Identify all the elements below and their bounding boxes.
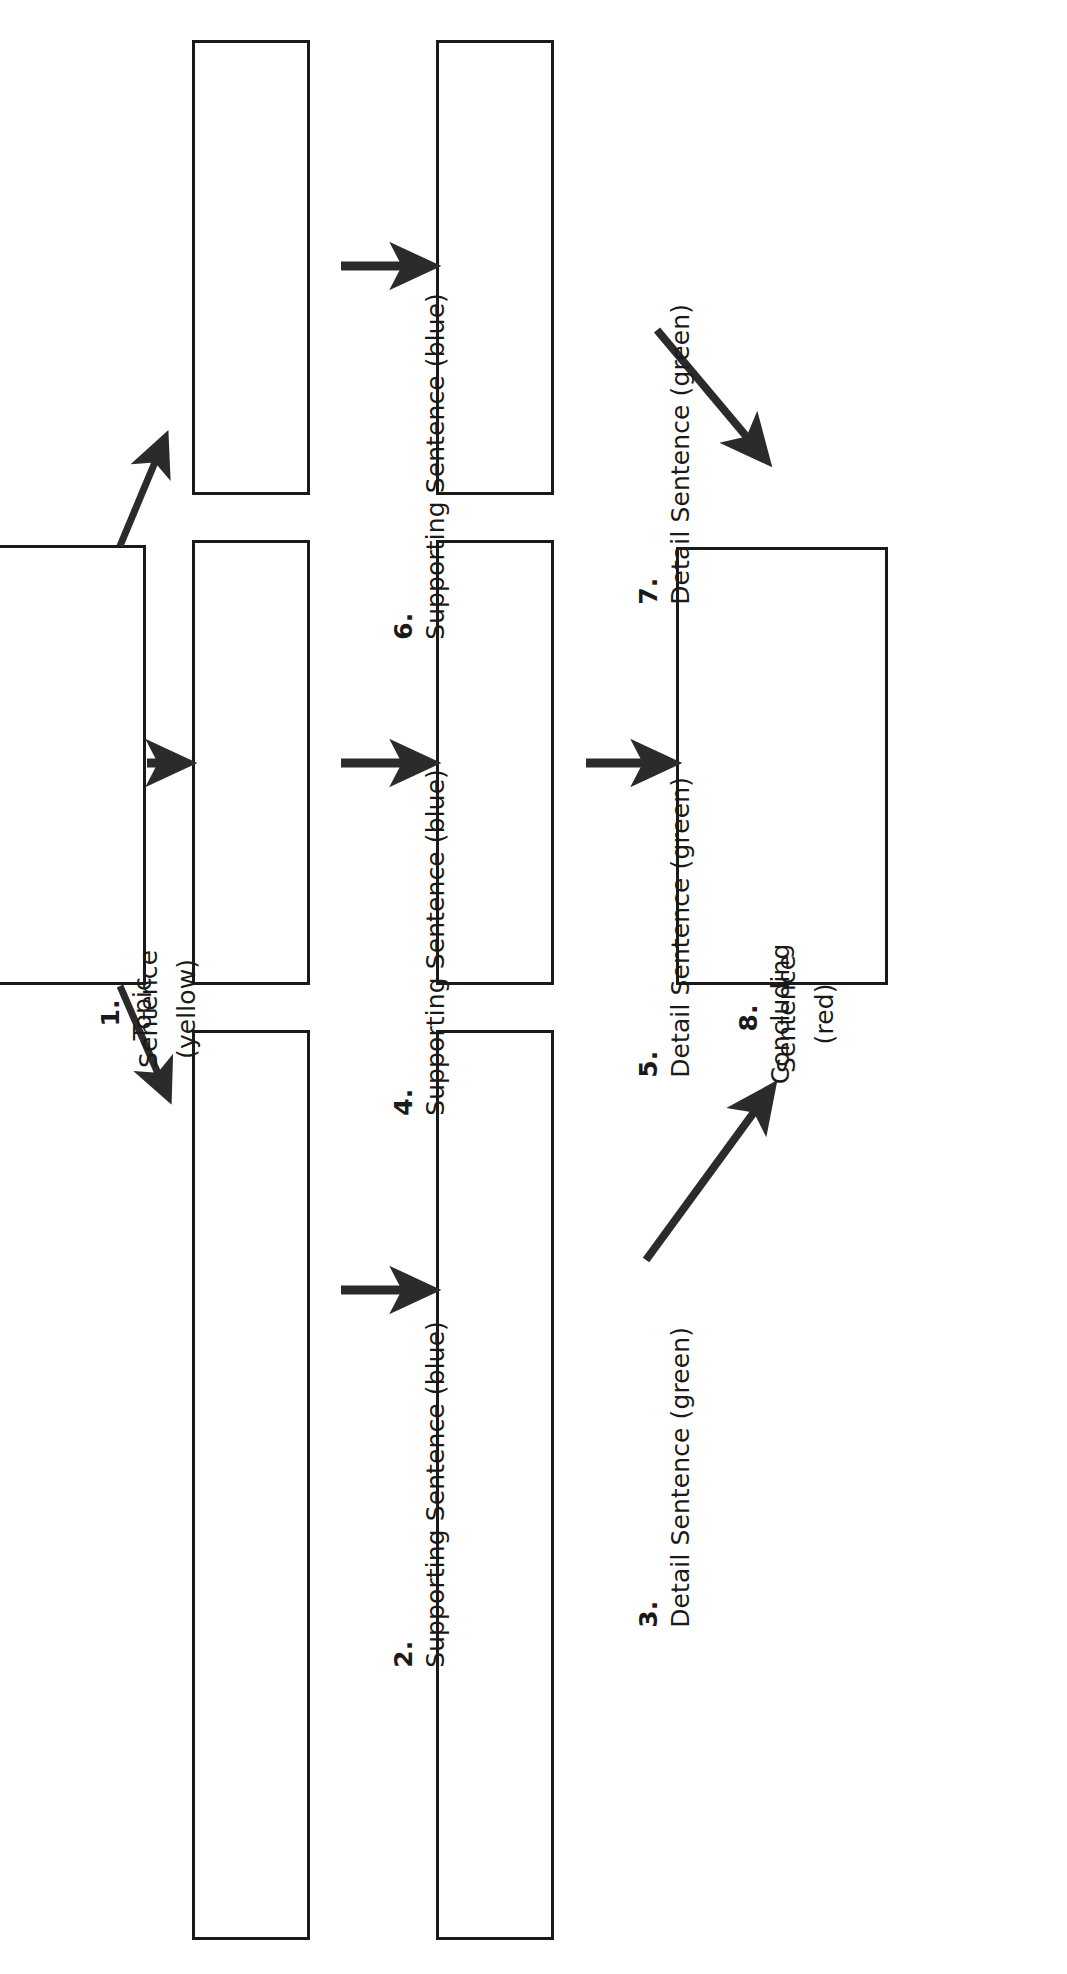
label-concluding-sentence-line3: (red) — [776, 930, 874, 1130]
diagram-canvas: 1. Topic Sentence (yellow) 2. Supporting… — [0, 0, 1067, 1974]
label-number-4: 4. — [389, 1089, 418, 1116]
box-supporting-sentence-6[interactable] — [192, 40, 310, 495]
arrow-topic-to-supporting-6 — [120, 443, 163, 546]
label-number-5: 5. — [634, 1051, 663, 1078]
box-topic-sentence[interactable] — [0, 545, 146, 985]
label-number-2: 2. — [389, 1641, 418, 1668]
box-supporting-sentence-2[interactable] — [192, 1030, 310, 1940]
label-text-7: Detail Sentence (green) — [666, 304, 695, 605]
label-number-7: 7. — [634, 578, 663, 605]
box-supporting-sentence-4[interactable] — [192, 540, 310, 985]
label-text-3: Detail Sentence (green) — [666, 1327, 695, 1628]
label-supporting-sentence-4: 4. Supporting Sentence (blue) — [355, 769, 485, 1148]
label-text-5: Detail Sentence (green) — [666, 777, 695, 1078]
label-detail-sentence-7: 7. Detail Sentence (green) — [600, 304, 730, 637]
label-text-8-line-3: (red) — [810, 983, 839, 1044]
label-text-4: Supporting Sentence (blue) — [421, 769, 450, 1116]
label-supporting-sentence-6: 6. Supporting Sentence (blue) — [355, 293, 485, 672]
label-text-1-line-3: (yellow) — [172, 959, 201, 1059]
label-supporting-sentence-2: 2. Supporting Sentence (blue) — [355, 1321, 485, 1700]
label-text-2: Supporting Sentence (blue) — [421, 1321, 450, 1668]
label-number-6: 6. — [389, 613, 418, 640]
label-text-6: Supporting Sentence (blue) — [421, 293, 450, 640]
label-detail-sentence-3: 3. Detail Sentence (green) — [600, 1327, 730, 1660]
label-number-3: 3. — [634, 1601, 663, 1628]
label-topic-sentence-line3: (yellow) — [138, 920, 236, 1130]
